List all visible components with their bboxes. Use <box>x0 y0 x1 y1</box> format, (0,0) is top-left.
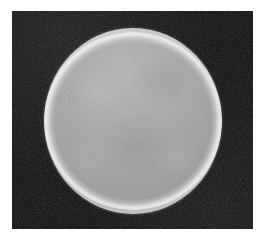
circular-disc <box>44 28 222 214</box>
disc-limb-upper-left-highlight <box>44 28 222 214</box>
disc-surface-texture <box>44 28 222 215</box>
figure-root: A bright gray circular disc with a lumin… <box>0 0 264 243</box>
disc-mottle-overlay <box>44 28 222 214</box>
figure-alt-text: A bright gray circular disc with a lumin… <box>0 16 1 17</box>
figure-caption <box>0 16 1 17</box>
photographic-plate-field <box>12 11 253 229</box>
disc-limb-highlight <box>44 28 222 214</box>
